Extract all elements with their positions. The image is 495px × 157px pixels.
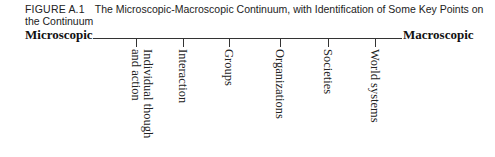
point-label-organizations: Organizations — [274, 49, 286, 119]
figure-caption: FIGURE A.1The Microscopic-Macroscopic Co… — [25, 3, 485, 27]
tick-interaction — [183, 39, 184, 47]
point-label-individual: Individual though and action — [130, 49, 154, 138]
figure-title: The Microscopic-Macroscopic Continuum, w… — [25, 3, 483, 27]
point-label-interaction: Interaction — [177, 49, 189, 103]
tick-societies — [328, 39, 329, 47]
figure-number: FIGURE A.1 — [25, 3, 85, 15]
point-label-societies: Societies — [322, 49, 334, 94]
point-label-world-systems: World systems — [369, 49, 381, 123]
point-label-groups: Groups — [223, 49, 235, 86]
tick-world-systems — [375, 39, 376, 47]
tick-organizations — [280, 39, 281, 47]
tick-individual — [136, 39, 137, 47]
macroscopic-label: Macroscopic — [403, 27, 474, 43]
tick-groups — [229, 39, 230, 47]
continuum-line — [93, 38, 402, 39]
microscopic-label: Microscopic — [25, 27, 93, 43]
